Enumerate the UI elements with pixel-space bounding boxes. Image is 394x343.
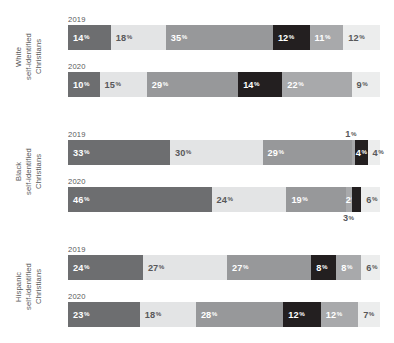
percent-sign: % <box>84 148 90 155</box>
segment-value: 28 <box>201 310 211 320</box>
percent-sign: % <box>372 195 378 202</box>
bar-segment[interactable]: 12% <box>273 25 310 50</box>
percent-sign: % <box>127 33 133 40</box>
percent-sign: % <box>337 310 343 317</box>
bar-segment[interactable]: 14% <box>238 72 282 97</box>
bar-segment[interactable]: 29% <box>147 72 238 97</box>
segment-value: 22 <box>287 80 297 90</box>
bar-segment[interactable]: 30% <box>170 140 263 165</box>
row-year-label: 2020 <box>68 291 380 302</box>
segment-value: 29 <box>268 148 278 158</box>
segment-value-label: 24% <box>68 263 90 273</box>
segment-value: 19 <box>291 195 301 205</box>
percent-sign: % <box>163 80 169 87</box>
bar-segment[interactable]: 4% <box>355 140 367 165</box>
chart-row: 202023%18%28%12%12%7% <box>68 291 380 327</box>
bar-segment[interactable]: 8% <box>311 255 336 280</box>
bar-segment[interactable]: 23% <box>68 302 140 327</box>
chart-row: 202010%15%29%14%22%9% <box>68 61 380 97</box>
bar-segment[interactable]: 15% <box>100 72 147 97</box>
bar-segment[interactable]: 24% <box>212 187 287 212</box>
percent-sign: % <box>115 80 121 87</box>
bar-segment[interactable]: 14% <box>68 25 111 50</box>
stacked-bar: 24%27%27%8%8%6% <box>68 255 380 280</box>
segment-value: 6 <box>366 195 371 205</box>
bar-segment[interactable]: 18% <box>111 25 166 50</box>
segment-value-label: 29% <box>263 148 285 158</box>
segment-value: 15 <box>105 80 115 90</box>
segment-value: 8 <box>316 263 321 273</box>
segment-value-label: 22% <box>282 80 304 90</box>
group-category-label-text: Black self-identified Christians <box>14 148 44 195</box>
bar-segment[interactable]: 12% <box>283 302 320 327</box>
segment-value: 27 <box>232 263 242 273</box>
bar-segment[interactable]: 33% <box>68 140 170 165</box>
segment-value: 33 <box>73 148 83 158</box>
bar-segment[interactable]: 6% <box>361 187 380 212</box>
percent-sign: % <box>186 148 192 155</box>
segment-value-label: 24% <box>212 195 234 205</box>
bar-segment[interactable]: 10% <box>68 72 100 97</box>
group-category-label: Black self-identified Christians <box>0 129 58 214</box>
segment-value-label: 12% <box>283 310 305 320</box>
percent-sign: % <box>84 80 90 87</box>
segment-value-label: 4% <box>355 148 367 158</box>
segment-value: 35 <box>171 33 181 43</box>
percent-sign: % <box>182 33 188 40</box>
segment-value-label: 4% <box>368 148 384 158</box>
bar-segment[interactable]: 4% <box>368 140 380 165</box>
bar-segment[interactable]: 19% <box>286 187 345 212</box>
bar-segment[interactable]: 35% <box>166 25 273 50</box>
bar-segment[interactable]: 24% <box>68 255 143 280</box>
bar-segment[interactable]: 46% <box>68 187 212 212</box>
group-category-label-text: White self-identified Christians <box>14 33 44 80</box>
percent-sign: % <box>254 80 260 87</box>
bar-segment[interactable]: 6% <box>361 255 380 280</box>
segment-value-label: 27% <box>143 263 165 273</box>
percent-sign: % <box>279 148 285 155</box>
bar-segment[interactable]: 27% <box>227 255 311 280</box>
segment-value: 12 <box>288 310 298 320</box>
segment-value-label: 28% <box>196 310 218 320</box>
segment-value-label: 8% <box>311 263 327 273</box>
bar-segment[interactable]: 11% <box>310 25 344 50</box>
chart-group: White self-identified Christians201914%1… <box>0 14 394 99</box>
bar-segment[interactable]: 27% <box>143 255 227 280</box>
segment-value: 6 <box>366 263 371 273</box>
segment-value-label: 14% <box>238 80 260 90</box>
segment-value-label: 6% <box>361 263 377 273</box>
percent-sign: % <box>349 214 355 221</box>
bar-segment[interactable]: 22% <box>282 72 351 97</box>
percent-sign: % <box>84 195 90 202</box>
segment-value: 12 <box>348 33 358 43</box>
stacked-bar: 23%18%28%12%12%7% <box>68 302 380 327</box>
bar-segment[interactable]: 12% <box>343 25 380 50</box>
percent-sign: % <box>347 263 353 270</box>
bar-segment[interactable]: 28% <box>196 302 283 327</box>
bar-segment[interactable]: 3% <box>352 187 361 212</box>
stacked-bar: 46%24%19%2%3%6% <box>68 187 380 212</box>
segment-value: 8 <box>341 263 346 273</box>
segment-value-label: 15% <box>100 80 122 90</box>
bar-segment[interactable]: 8% <box>336 255 361 280</box>
segment-value: 7 <box>363 310 368 320</box>
segment-value: 30 <box>175 148 185 158</box>
percent-sign: % <box>84 310 90 317</box>
bar-segment[interactable]: 29% <box>263 140 353 165</box>
segment-value: 12 <box>326 310 336 320</box>
segment-value-label: 10% <box>68 80 90 90</box>
segment-value-label: 19% <box>286 195 308 205</box>
bar-segment[interactable]: 9% <box>352 72 380 97</box>
percent-sign: % <box>227 195 233 202</box>
bar-segment[interactable]: 7% <box>358 302 380 327</box>
segment-value-label: 12% <box>273 33 295 43</box>
bar-segment[interactable]: 18% <box>140 302 196 327</box>
percent-sign: % <box>302 195 308 202</box>
segment-value-label: 29% <box>147 80 169 90</box>
segment-value: 14 <box>73 33 83 43</box>
group-category-label-text: Hispanic self-identified Christians <box>14 263 44 310</box>
bar-segment[interactable]: 12% <box>321 302 358 327</box>
chart-row: 202046%24%19%2%3%6% <box>68 176 380 212</box>
percent-sign: % <box>159 263 165 270</box>
row-year-label: 2020 <box>68 61 380 72</box>
